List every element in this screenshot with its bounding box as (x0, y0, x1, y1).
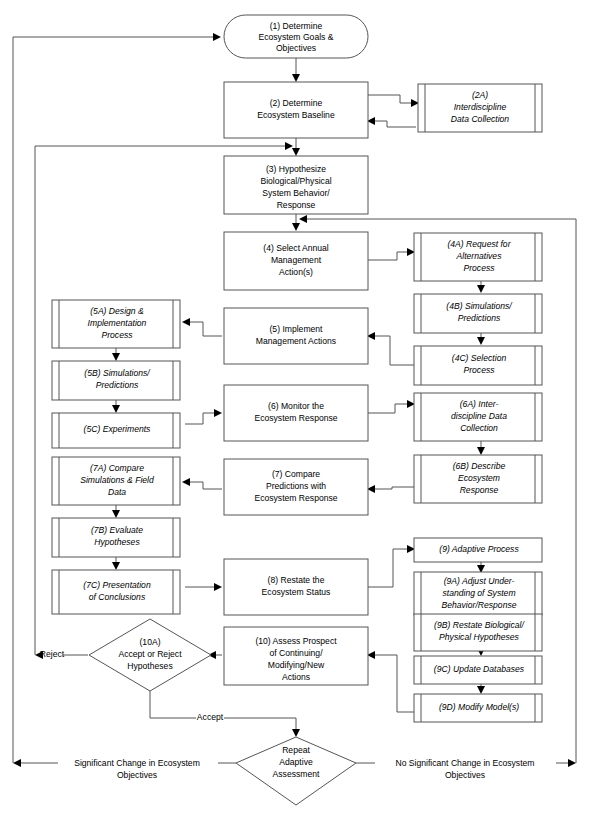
node-7-line-1: Predictions with (266, 481, 326, 491)
node-7b-evaluate-hypotheses[interactable]: (7B) Evaluate Hypotheses (52, 518, 180, 557)
node-10a-accept-or-reject-hypotheses[interactable]: (10A) Accept or Reject Hypotheses (89, 619, 211, 691)
connector-n6b-to-n7 (370, 487, 415, 489)
node-3-line-3: Response (277, 200, 316, 210)
arrowhead-no-significant-change-loop (299, 215, 307, 223)
node-9-line-0: (9) Adaptive Process (439, 544, 519, 554)
node-9-adaptive-process[interactable]: (9) Adaptive Process (414, 538, 542, 562)
connector-n2a-to-n2 (370, 121, 416, 127)
node-9a-adjust-understanding-of-system[interactable]: (9A) Adjust Under- standing of System Be… (414, 572, 542, 615)
node-10-line-1: of Continuing/ (269, 648, 323, 658)
arrowhead-n5-n5a (182, 318, 190, 326)
node-5-line-0: (5) Implement (269, 324, 323, 334)
node-9a-line-1: standing of System (442, 588, 515, 598)
node-layer: (1) Determine Ecosystem Goals & Objectiv… (52, 15, 542, 805)
arrowhead-reject-loop (285, 142, 293, 150)
connector-n4c-to-n5 (370, 336, 415, 365)
node-10a-line-1: Accept or Reject (118, 649, 182, 659)
node-6b-line-1: Ecosystem (458, 473, 500, 483)
node-7a-compare-simulations-field-data[interactable]: (7A) Compare Simulations & Field Data (52, 457, 180, 505)
arrowhead-repeat-no-significant (568, 759, 576, 767)
node-9b-line-0: (9B) Restate Biological/ (434, 620, 525, 630)
node-5b-line-1: Predictions (96, 380, 139, 390)
node-6a-line-0: (6A) Inter- (460, 399, 499, 409)
connector-n5-to-n5a (185, 322, 222, 336)
node-5b-simulations-predictions[interactable]: (5B) Simulations/ Predictions (52, 361, 180, 400)
node-4c-line-0: (4C) Selection (452, 353, 507, 363)
node-4c-selection-process[interactable]: (4C) Selection Process (414, 346, 542, 385)
node-5a-design-implementation-process[interactable]: (5A) Design & Implementation Process (52, 300, 180, 348)
node-repeat-adaptive-assessment[interactable]: Repeat Adaptive Assessment (236, 737, 356, 805)
node-4-line-2: Action(s) (279, 267, 313, 277)
node-4-line-1: Management (271, 255, 322, 265)
node-9c-line-0: (9C) Update Databases (434, 664, 525, 674)
flowchart-canvas: (1) Determine Ecosystem Goals & Objectiv… (0, 0, 590, 828)
node-9a-line-0: (9A) Adjust Under- (444, 576, 515, 586)
node-2a-line-0: (2A) (472, 90, 488, 100)
node-7-line-0: (7) Compare (272, 469, 320, 479)
arrowhead-n9c-n9d (477, 686, 485, 694)
node-8-restate-ecosystem-status[interactable]: (8) Restate the Ecosystem Status (224, 559, 368, 615)
node-2-line-1: Ecosystem Baseline (257, 110, 335, 120)
node-7-compare-predictions-with-response[interactable]: (7) Compare Predictions with Ecosystem R… (224, 459, 368, 515)
node-7c-line-0: (7C) Presentation (83, 580, 151, 590)
node-4-select-annual-management-actions[interactable]: (4) Select Annual Management Action(s) (224, 232, 368, 290)
node-10-line-2: Modifying/New (268, 660, 325, 670)
node-7c-line-1: of Conclusions (89, 592, 146, 602)
node-7c-presentation-of-conclusions[interactable]: (7C) Presentation of Conclusions (52, 570, 180, 614)
node-1-determine-ecosystem-goals[interactable]: (1) Determine Ecosystem Goals & Objectiv… (224, 15, 368, 58)
node-3-hypothesize-system-behavior[interactable]: (3) Hypothesize Biological/Physical Syst… (224, 156, 368, 214)
node-5a-line-0: (5A) Design & (90, 306, 144, 316)
node-6a-interdiscipline-data-collection[interactable]: (6A) Inter- discipline Data Collection (414, 393, 542, 441)
node-9c-update-databases[interactable]: (9C) Update Databases (414, 656, 542, 684)
edge-label-no-significant-change-line1: No Significant Change in Ecosystem (395, 758, 534, 768)
node-4a-request-for-alternatives-process[interactable]: (4A) Request for Alternatives Process (414, 233, 542, 281)
connector-n7-to-n7a (185, 482, 222, 489)
node-8-line-1: Ecosystem Status (262, 587, 331, 597)
node-9b-line-1: Physical Hypotheses (439, 632, 519, 642)
node-6b-describe-ecosystem-response[interactable]: (6B) Describe Ecosystem Response (414, 455, 542, 503)
arrowhead-n6a-n6b (477, 447, 485, 455)
node-4a-line-1: Alternatives (456, 251, 503, 261)
node-9a-line-2: Behavior/Response (441, 600, 516, 610)
node-1-line-1: Ecosystem Goals & (259, 32, 334, 42)
node-9d-modify-models[interactable]: (9D) Modify Model(s) (414, 694, 542, 722)
node-10a-line-0: (10A) (139, 637, 160, 647)
node-7b-line-0: (7B) Evaluate (91, 525, 143, 535)
node-6-monitor-ecosystem-response[interactable]: (6) Monitor the Ecosystem Response (224, 385, 368, 441)
node-repeat-line-1: Adaptive (279, 757, 313, 767)
node-10-line-3: Actions (282, 672, 310, 682)
node-5a-line-1: Implementation (88, 318, 147, 328)
edge-label-significant-change-line1: Significant Change in Ecosystem (74, 758, 200, 768)
connector-n6-to-n6a (367, 404, 412, 413)
node-4b-line-1: Predictions (458, 313, 501, 323)
arrowhead-n5c-n6 (214, 409, 222, 417)
arrowhead-n4a-n4b (477, 285, 485, 293)
arrowhead-repeat-significant (13, 759, 21, 767)
node-5c-experiments[interactable]: (5C) Experiments (52, 413, 180, 448)
node-4-line-0: (4) Select Annual (263, 243, 329, 253)
node-6b-line-0: (6B) Describe (453, 461, 506, 471)
node-1-line-0: (1) Determine (270, 21, 323, 31)
node-3-line-0: (3) Hypothesize (266, 164, 326, 174)
node-6-line-0: (6) Monitor the (268, 401, 324, 411)
node-9b-restate-biological-physical-hypotheses[interactable]: (9B) Restate Biological/ Physical Hypoth… (414, 614, 542, 651)
node-5b-line-0: (5B) Simulations/ (84, 368, 151, 378)
node-6b-line-2: Response (460, 485, 499, 495)
node-2a-interdiscipline-data-collection[interactable]: (2A) Interdiscipline Data Collection (418, 84, 542, 132)
node-2-determine-ecosystem-baseline[interactable]: (2) Determine Ecosystem Baseline (224, 82, 368, 138)
node-10a-line-2: Hypotheses (127, 661, 172, 671)
node-2a-line-1: Interdiscipline (454, 102, 507, 112)
arrowhead-significant-change-loop (213, 33, 221, 41)
arrowhead-n5a-n5b (112, 353, 120, 361)
arrowhead-n7a-n7b (112, 510, 120, 518)
connector-n5c-to-n6 (185, 413, 219, 424)
node-4c-line-1: Process (463, 365, 495, 375)
node-5-implement-management-actions[interactable]: (5) Implement Management Actions (224, 308, 368, 364)
node-10-assess-prospect[interactable]: (10) Assess Prospect of Continuing/ Modi… (224, 627, 368, 685)
node-1-line-2: Objectives (276, 43, 316, 53)
arrowhead-n1-n2 (292, 74, 300, 82)
node-5-line-1: Management Actions (256, 336, 336, 346)
node-repeat-line-2: Assessment (273, 769, 320, 779)
node-4b-simulations-predictions[interactable]: (4B) Simulations/ Predictions (414, 294, 542, 333)
node-2a-line-2: Data Collection (451, 114, 509, 124)
